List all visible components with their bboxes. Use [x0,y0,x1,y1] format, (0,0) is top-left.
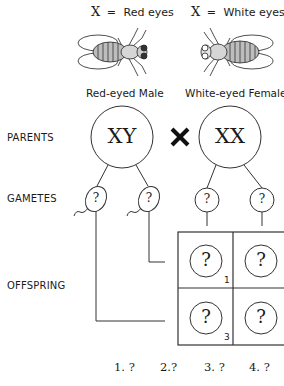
cross-icon [172,129,188,145]
answer-4: 4. ? [249,360,270,374]
punnett-cell-3-index: 3 [224,332,230,342]
male-fly-label: Red-eyed Male [86,87,164,99]
punnett-cell-1-index: 1 [224,275,230,285]
sperm-gamete-1-value: ? [90,191,102,205]
egg-gamete-1-value: ? [201,192,213,206]
fruit-fly-icon [78,28,147,76]
fruit-fly-icon [201,28,273,76]
male-genotype: XY [98,124,146,148]
answer-3: 3. ? [204,360,225,374]
row-label-offspring: OFFSPRING [7,280,66,291]
punnett-cell-2-value: ? [251,249,271,270]
female-fly-label: White-eyed Female [185,87,284,99]
female-genotype: XX [206,124,254,148]
egg-gamete-2-value: ? [256,192,268,206]
punnett-cell-4-value: ? [251,306,271,327]
answer-1: 1. ? [114,360,135,374]
row-label-parents: PARENTS [7,132,54,143]
sperm-gamete-2-value: ? [143,191,155,205]
row-label-gametes: GAMETES [7,193,57,204]
answer-2: 2.? [160,360,177,374]
punnett-cell-3-value: ? [196,306,216,327]
punnett-cell-1-value: ? [196,249,216,270]
